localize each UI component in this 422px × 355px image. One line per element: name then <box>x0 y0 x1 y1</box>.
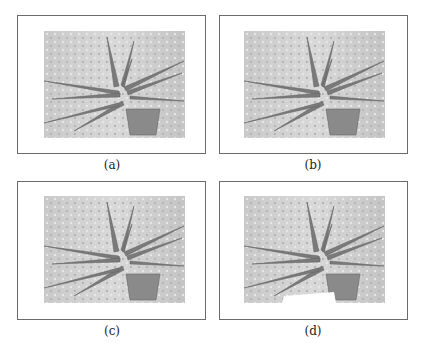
aloe-plant-icon <box>44 31 185 138</box>
caption-c: (c) <box>92 324 132 338</box>
panel-b <box>219 15 408 154</box>
aloe-plant-icon <box>44 196 185 303</box>
aloe-photo-d <box>244 196 385 303</box>
panel-a <box>17 15 206 154</box>
caption-b: (b) <box>293 158 333 172</box>
caption-d: (d) <box>293 324 333 338</box>
aloe-photo-c <box>44 196 185 303</box>
aloe-photo-b <box>244 31 385 138</box>
caption-a: (a) <box>92 158 132 172</box>
aloe-plant-icon <box>244 31 385 138</box>
aloe-photo-a <box>44 31 185 138</box>
panel-c <box>17 181 206 320</box>
aloe-plant-icon <box>244 196 385 303</box>
panel-d <box>219 181 408 320</box>
